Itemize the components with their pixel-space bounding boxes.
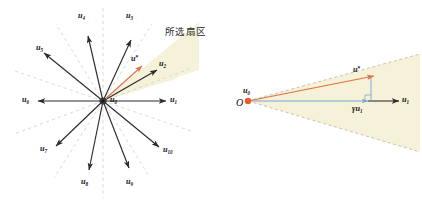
detail-sector-wedge — [248, 54, 420, 152]
two-panel-vector-figure: u1 u2 u3 u4 u5 u6 u7 u8 u9 u10 u0 u* 所选扇… — [0, 0, 422, 207]
label-u6: u6 — [22, 96, 29, 104]
label-origin-O: O — [236, 98, 243, 108]
label-u10: u10 — [163, 146, 173, 154]
vector-u8 — [89, 101, 103, 170]
label-u-star-left: u* — [131, 55, 138, 63]
label-u7: u7 — [40, 145, 47, 153]
label-gamma-u1: γu1 — [352, 105, 363, 113]
label-u1: u1 — [170, 96, 177, 104]
label-u5: u5 — [36, 44, 43, 52]
label-u9: u9 — [126, 178, 133, 186]
label-u1-right: u1 — [402, 96, 409, 104]
label-u4: u4 — [78, 12, 85, 20]
label-u0-origin: u0 — [110, 96, 117, 104]
label-u8: u8 — [81, 178, 88, 186]
label-u0-right: u0 — [243, 87, 250, 95]
label-u-star-right: u* — [353, 66, 360, 74]
vector-u7 — [56, 101, 103, 146]
right-panel-group — [245, 54, 420, 152]
selected-sector-annotation: 所选扇区 — [165, 24, 207, 38]
label-u3: u3 — [126, 12, 133, 20]
origin-dot-right — [245, 98, 251, 104]
origin-marker-left-inner — [101, 99, 104, 102]
label-u2: u2 — [159, 60, 166, 68]
